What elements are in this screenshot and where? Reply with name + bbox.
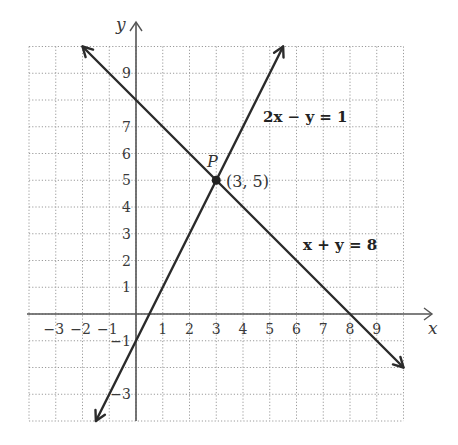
x-tick-label: 2 <box>185 321 194 337</box>
y-tick-label: 2 <box>122 253 131 269</box>
x-tick-label: 8 <box>346 321 355 337</box>
point-p-marker <box>212 176 221 185</box>
x-tick-label: 9 <box>372 321 381 337</box>
y-tick-label: 6 <box>122 146 131 162</box>
axes <box>27 22 432 421</box>
x-axis-label: x <box>428 318 438 338</box>
equation-label-2x-minus-y: 2x − y = 1 <box>263 108 348 126</box>
point-p-coordinates: (3, 5) <box>226 172 269 191</box>
coordinate-plane-chart: −3−2−112345678997654321−1−3 x y 2x − y =… <box>0 0 458 445</box>
y-tick-label: 1 <box>122 279 131 295</box>
x-tick-label: −2 <box>70 321 91 337</box>
x-tick-label: 5 <box>265 321 274 337</box>
y-tick-label: 9 <box>122 65 131 81</box>
x-tick-label: 4 <box>239 321 248 337</box>
x-tick-label: 7 <box>319 321 328 337</box>
x-tick-label: 6 <box>292 321 301 337</box>
x-tick-label: 1 <box>158 321 167 337</box>
annotations <box>212 176 221 185</box>
y-tick-label: 3 <box>122 226 131 242</box>
point-p-label: P <box>206 152 218 171</box>
y-tick-label: 4 <box>122 199 131 215</box>
y-tick-label: 7 <box>122 119 131 135</box>
y-tick-label: 5 <box>122 172 131 188</box>
y-tick-label: −3 <box>110 386 131 402</box>
y-axis-label: y <box>115 14 126 34</box>
x-tick-label: 3 <box>212 321 221 337</box>
equation-label-x-plus-y: x + y = 8 <box>303 236 377 254</box>
grid <box>29 47 404 422</box>
y-tick-label: −1 <box>110 333 131 349</box>
x-tick-label: −3 <box>43 321 64 337</box>
